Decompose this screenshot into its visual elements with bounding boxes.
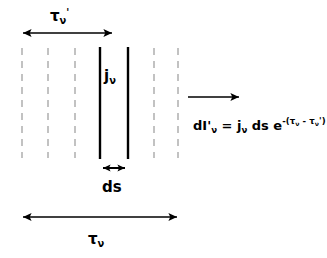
dashed-depth-lines-right [154,48,178,158]
equation-equals: = j [217,118,241,133]
emissivity-label: jν [104,69,116,86]
tau-prime-symbol: τ [50,7,60,25]
radiative-transfer-diagram: τν' jν ds τν dI'ν = jν ds e-(τν - τν') [0,0,327,258]
tau-subscript: ν [98,238,105,249]
exponent-open: -(τ [282,116,295,126]
exponent-close: ') [319,116,326,126]
equation-lhs: dI' [193,118,211,133]
tau-prime-label: τν' [50,8,69,25]
dashed-depth-lines-left [22,48,75,158]
exponent-middle: - τ [300,116,315,126]
tau-label: τν [88,232,104,249]
equation-rhs-mid: ds e [247,118,282,133]
emissivity-subscript: ν [109,75,116,86]
tau-symbol: τ [88,230,98,248]
tau-prime-mark: ' [66,7,69,18]
ds-label: ds [102,180,122,195]
transfer-equation: dI'ν = jν ds e-(τν - τν') [193,117,326,134]
equation-exponent: -(τν - τν') [282,116,326,126]
slab-boundary-lines [100,47,128,159]
